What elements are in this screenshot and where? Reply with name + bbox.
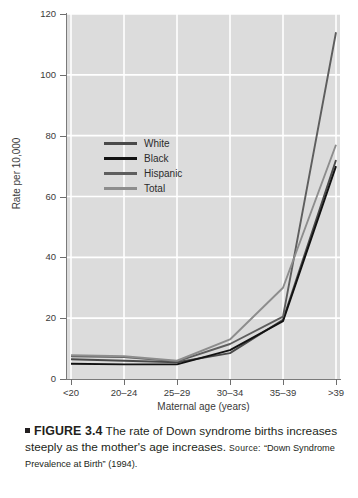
caption-source-label: Source: <box>229 443 261 453</box>
caption-bullet-icon <box>25 428 30 433</box>
legend-item-black: Black <box>104 151 182 166</box>
y-tick-label: 100 <box>0 69 67 80</box>
gridlines <box>67 14 340 379</box>
x-tick-label: 30–34 <box>217 387 243 398</box>
legend-swatch <box>104 172 137 175</box>
y-tick-label: 40 <box>0 251 67 262</box>
y-axis-title: Rate per 10,000 <box>11 104 22 244</box>
chart-legend: WhiteBlackHispanicTotal <box>104 136 182 196</box>
legend-item-white: White <box>104 136 182 151</box>
x-tick-mark <box>283 379 284 385</box>
page-edge-artifact <box>1 335 10 455</box>
figure-caption: FIGURE 3.4 The rate of Down syndrome bir… <box>25 424 345 473</box>
y-tick-label: 120 <box>0 8 67 19</box>
caption-figure-number: FIGURE 3.4 <box>34 424 102 438</box>
x-tick-mark <box>71 379 72 385</box>
legend-item-hispanic: Hispanic <box>104 166 182 181</box>
x-tick-label: >39 <box>328 387 344 398</box>
legend-swatch <box>104 157 137 160</box>
x-tick-label: 20–24 <box>111 387 137 398</box>
chart-container: 020406080100120 Rate per 10,000 <2020–24… <box>0 0 358 412</box>
legend-swatch <box>104 187 137 189</box>
legend-label: Total <box>144 183 165 194</box>
x-tick-mark <box>336 379 337 385</box>
x-tick-label: 25–29 <box>164 387 190 398</box>
x-axis-line <box>66 379 341 380</box>
x-tick-label: <20 <box>63 387 79 398</box>
x-tick-mark <box>177 379 178 385</box>
series-lines <box>71 32 336 364</box>
legend-label: Black <box>144 153 168 164</box>
legend-swatch <box>104 142 137 145</box>
x-tick-mark <box>124 379 125 385</box>
x-axis-title: Maternal age (years) <box>67 401 340 412</box>
y-tick-label: 20 <box>0 312 67 323</box>
y-tick-label: 0 <box>0 373 67 384</box>
legend-item-total: Total <box>104 181 182 196</box>
legend-label: Hispanic <box>144 168 182 179</box>
legend-label: White <box>144 138 170 149</box>
x-tick-label: 35–39 <box>270 387 296 398</box>
plot-svg <box>67 14 340 379</box>
plot-area <box>67 14 340 379</box>
figure-3-4: 020406080100120 Rate per 10,000 <2020–24… <box>0 0 358 498</box>
x-tick-mark <box>230 379 231 385</box>
y-axis-line <box>66 13 67 380</box>
